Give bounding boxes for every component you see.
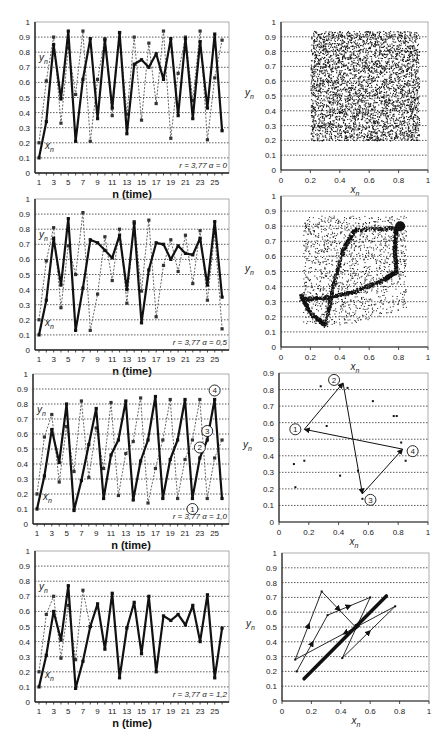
scatter-point (365, 114, 366, 115)
x-tick-label: 3 (51, 707, 56, 716)
x-tick-label: 7 (81, 355, 86, 364)
scatter-point (331, 124, 332, 125)
scatter-point (392, 130, 393, 131)
scatter-point (347, 270, 348, 271)
scatter-point (367, 86, 368, 87)
scatter-point (359, 111, 360, 112)
scatter-point (389, 88, 390, 89)
scatter-point (342, 50, 343, 51)
data-point (81, 286, 84, 289)
data-point (43, 474, 46, 477)
scatter-point (376, 310, 377, 311)
scatter-point (328, 233, 329, 234)
data-point (74, 93, 77, 96)
data-point (220, 497, 223, 500)
scatter-point (307, 246, 308, 247)
scatter-point (319, 130, 320, 131)
band-point (391, 226, 392, 227)
scatter-point (388, 84, 389, 85)
band-point (319, 298, 320, 299)
scatter-point (369, 71, 370, 72)
scatter-point (336, 311, 337, 312)
data-point (50, 428, 53, 431)
x-tick-label: 0 (280, 707, 285, 716)
scatter-point (330, 121, 331, 122)
scatter-point (405, 65, 406, 66)
scatter-point (336, 235, 337, 236)
scatter-point (331, 249, 332, 250)
scatter-point (366, 67, 367, 68)
scatter-point (378, 225, 379, 226)
scatter-point (339, 319, 340, 320)
scatter-point (381, 37, 382, 38)
scatter-point (314, 83, 315, 84)
scatter-point (379, 116, 380, 117)
scatter-point (340, 112, 341, 113)
scatter-point (342, 103, 343, 104)
scatter-point (344, 38, 345, 39)
scatter-point (401, 233, 402, 234)
scatter-point (318, 96, 319, 97)
y-tick-label: 0.1 (19, 154, 31, 163)
scatter-point (345, 69, 346, 70)
scatter-point (312, 322, 313, 323)
scatter-point (304, 231, 305, 232)
scatter-point (322, 304, 323, 305)
scatter-point (326, 235, 327, 236)
band-point (332, 294, 333, 295)
scatter-point (403, 90, 404, 91)
scatter-point (370, 39, 371, 40)
scatter-point (403, 54, 404, 55)
scatter-point (405, 255, 406, 256)
scatter-point (355, 305, 356, 306)
scatter-point (394, 96, 395, 97)
band-point (396, 257, 397, 258)
scatter-point (362, 254, 363, 255)
scatter-point (395, 73, 396, 74)
scatter-point (410, 104, 411, 105)
scatter-point (316, 38, 317, 39)
scatter-point (320, 68, 321, 69)
scatter-point (411, 67, 412, 68)
scatter-point (353, 109, 354, 110)
band-point (327, 295, 328, 296)
scatter-point (391, 43, 392, 44)
scatter-point (404, 233, 405, 234)
scatter-point (331, 69, 332, 70)
data-point (87, 443, 90, 446)
data-point (169, 137, 172, 140)
x-tick-label: 25 (210, 178, 219, 187)
scatter-point (378, 219, 379, 220)
scatter-point (363, 236, 364, 237)
scatter-point (417, 86, 418, 87)
scatter-point (368, 61, 369, 62)
scatter-point (344, 290, 345, 291)
scatter-point (330, 112, 331, 113)
scatter-point (319, 222, 320, 223)
scatter-point (356, 51, 357, 52)
band-point (342, 295, 343, 296)
scatter-point (393, 61, 394, 62)
scatter-point (368, 106, 369, 107)
scatter-point (401, 68, 402, 69)
scatter-point (354, 129, 355, 130)
scatter-point (378, 45, 379, 46)
scatter-point (386, 231, 387, 232)
scatter-point (365, 43, 366, 44)
scatter-point (381, 60, 382, 61)
band-point (365, 230, 366, 231)
scatter-point (319, 70, 320, 71)
scatter-point (316, 54, 317, 55)
band-point (396, 259, 397, 260)
scatter-point (343, 122, 344, 123)
data-point (89, 329, 92, 332)
scatter-point (344, 270, 345, 271)
x-tick-label: 11 (108, 707, 117, 716)
scatter-point (305, 246, 306, 247)
scatter-point (357, 43, 358, 44)
scatter-point (315, 304, 316, 305)
data-point (169, 258, 172, 261)
scatter-point (307, 313, 308, 314)
scatter-point (345, 288, 346, 289)
scatter-point (347, 139, 348, 140)
